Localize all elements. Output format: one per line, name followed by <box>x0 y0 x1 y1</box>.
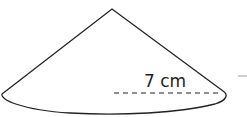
cone-diagram: 7 cm <box>0 0 247 117</box>
cone-slant-sides <box>2 9 223 94</box>
cone-base-ellipse-front <box>2 91 226 114</box>
radius-label: 7 cm <box>144 71 186 91</box>
